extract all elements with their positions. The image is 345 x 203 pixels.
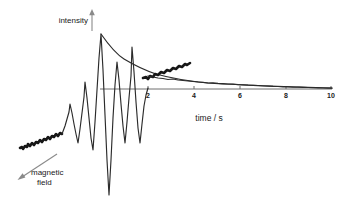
magnetic-field-arrow-head	[18, 173, 26, 180]
tick-label-6: 6	[238, 92, 242, 99]
trace-envelope	[101, 34, 332, 88]
intensity-arrow-head	[89, 9, 95, 15]
plot-figure: 2 4 6 8 10 time / s intensity magnetic f…	[0, 0, 345, 203]
tick-label-10: 10	[327, 92, 335, 99]
intensity-axis-arrow: intensity	[59, 9, 95, 31]
plot-svg: 2 4 6 8 10 time / s intensity magnetic f…	[0, 0, 345, 203]
tick-label-4: 4	[192, 92, 196, 99]
magnetic-field-label-line1: magnetic	[31, 168, 63, 177]
trace-noisy-onset	[20, 133, 62, 149]
magnetic-field-arrow: magnetic field	[18, 154, 64, 187]
magnetic-field-label-line2: field	[37, 178, 52, 187]
trace-oscillation	[62, 34, 148, 195]
tick-label-8: 8	[284, 92, 288, 99]
intensity-label: intensity	[59, 16, 88, 25]
x-axis-label: time / s	[195, 113, 222, 123]
